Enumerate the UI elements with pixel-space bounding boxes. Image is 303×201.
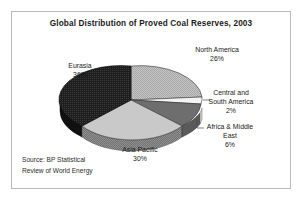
pie-label-eurasia-pct: 36% bbox=[52, 70, 108, 79]
pie-label-africa-middle-east-name-line2: East bbox=[194, 131, 266, 140]
pie-label-africa-middle-east: Africa & Middle East 6% bbox=[194, 122, 266, 150]
pie-label-eurasia-name: Eurasia bbox=[68, 62, 91, 69]
pie-label-asia-pacific-name: Asia Pacific bbox=[122, 146, 158, 153]
pie-label-asia-pacific-pct: 30% bbox=[104, 154, 176, 163]
pie-label-central-south-america-pct: 2% bbox=[194, 106, 268, 115]
pie-label-central-south-america-name-line1: Central and bbox=[213, 89, 249, 96]
pie-label-africa-middle-east-pct: 6% bbox=[194, 140, 266, 149]
source-note: Source: BP Statistical Review of World E… bbox=[22, 155, 93, 176]
pie-label-central-south-america-name-line2: South America bbox=[194, 97, 268, 106]
pie-label-central-south-america: Central and South America 2% bbox=[194, 88, 268, 116]
pie-label-africa-middle-east-name-line1: Africa & Middle bbox=[207, 123, 253, 130]
pie-label-eurasia: Eurasia 36% bbox=[52, 61, 108, 79]
source-note-line2: Review of World Energy bbox=[22, 166, 93, 177]
chart-frame: Global Distribution of Proved Coal Reser… bbox=[11, 11, 291, 189]
pie-label-north-america-name: North America bbox=[195, 46, 239, 53]
pie-label-asia-pacific: Asia Pacific 30% bbox=[104, 145, 176, 163]
pie-label-north-america-pct: 26% bbox=[180, 54, 254, 63]
pie-label-north-america: North America 26% bbox=[180, 45, 254, 63]
source-note-line1: Source: BP Statistical bbox=[22, 155, 93, 166]
pie-slice-north-america bbox=[131, 66, 202, 100]
